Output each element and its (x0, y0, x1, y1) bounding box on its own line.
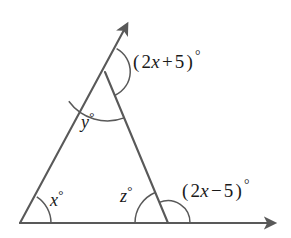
minus-operator: − (209, 180, 224, 201)
exterior-top-angle-arc (115, 49, 130, 95)
degree-symbol: ° (89, 109, 94, 124)
degree-symbol: ° (127, 183, 132, 198)
exterior-bottom-angle-label: (2x−5)° (180, 178, 250, 200)
interior-apex-angle-label: y° (81, 111, 95, 131)
variable-x: x (200, 180, 209, 201)
open-paren: ( (131, 51, 142, 72)
left-side-ray (20, 30, 124, 223)
triangle-diagram-svg (0, 0, 291, 238)
close-paren: ) (234, 180, 245, 201)
interior-left-angle-arc (37, 197, 51, 223)
geometry-figure: (2x+5)° (2x−5)° y° x° z° (0, 0, 291, 238)
variable-y: y (81, 112, 89, 132)
variable-x: x (50, 190, 58, 210)
exterior-top-angle-label: (2x+5)° (131, 49, 201, 71)
right-side-segment (105, 72, 168, 223)
interior-right-angle-arc (135, 193, 155, 224)
degree-symbol: ° (58, 187, 63, 202)
plus-operator: + (160, 51, 175, 72)
coefficient: 2 (191, 180, 201, 201)
interior-left-angle-label: x° (50, 189, 64, 209)
coefficient: 2 (142, 51, 152, 72)
interior-right-angle-label: z° (120, 185, 133, 205)
degree-symbol: ° (244, 177, 250, 192)
degree-symbol: ° (195, 48, 201, 63)
constant: 5 (224, 180, 234, 201)
variable-x: x (151, 51, 160, 72)
open-paren: ( (180, 180, 191, 201)
close-paren: ) (185, 51, 196, 72)
constant: 5 (175, 51, 185, 72)
